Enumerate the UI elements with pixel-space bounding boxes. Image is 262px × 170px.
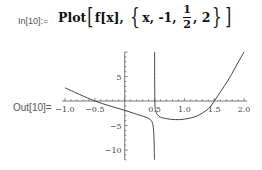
y-tick-label: −10 — [105, 146, 122, 155]
y-tick-label: −5 — [110, 122, 122, 131]
plot-axes: −1.0−0.50.51.01.52.05−5−10 — [55, 52, 250, 160]
plot-graphic[interactable]: −1.0−0.50.51.01.52.05−5−10 — [0, 0, 262, 170]
function-curve — [155, 52, 244, 120]
y-tick-label: 5 — [117, 73, 122, 82]
x-tick-label: 2.0 — [238, 105, 251, 114]
x-tick-label: 1.0 — [178, 105, 191, 114]
x-tick-label: −1.0 — [55, 105, 74, 114]
x-tick-label: 1.5 — [208, 105, 221, 114]
x-tick-label: −0.5 — [85, 105, 104, 114]
